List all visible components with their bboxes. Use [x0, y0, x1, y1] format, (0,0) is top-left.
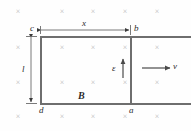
field-into-page-mark: × — [58, 113, 66, 121]
field-into-page-mark: × — [89, 8, 97, 16]
field-into-page-mark: × — [89, 113, 97, 121]
bottom-rail — [40, 103, 191, 105]
field-into-page-mark: × — [121, 44, 129, 52]
field-into-page-mark: × — [14, 113, 22, 121]
label-dimension-x: x — [82, 19, 86, 28]
field-into-page-mark: × — [58, 79, 66, 87]
field-into-page-mark: × — [153, 113, 161, 121]
field-into-page-mark: × — [153, 44, 161, 52]
label-velocity: v — [173, 62, 177, 71]
sliding-bar — [130, 36, 132, 104]
field-into-page-mark: × — [121, 8, 129, 16]
field-into-page-mark: × — [89, 79, 97, 87]
rail-diagram-figure: ×××××××××××××××××××× — [0, 0, 191, 131]
arrows-layer — [0, 0, 191, 131]
field-into-page-mark: × — [121, 79, 129, 87]
field-into-page-mark: × — [153, 79, 161, 87]
left-rail-segment — [40, 36, 42, 104]
label-field-B: B — [78, 91, 85, 100]
field-into-page-mark: × — [89, 44, 97, 52]
field-into-page-mark: × — [121, 113, 129, 121]
label-emf: ε — [112, 64, 116, 73]
label-corner-d: d — [39, 106, 44, 115]
field-into-page-mark: × — [58, 44, 66, 52]
label-corner-a: a — [129, 106, 134, 115]
top-rail — [40, 36, 191, 38]
field-into-page-mark: × — [14, 79, 22, 87]
label-dimension-l: l — [22, 65, 25, 74]
field-into-page-mark: × — [14, 44, 22, 52]
label-corner-b: b — [134, 24, 139, 33]
field-into-page-mark: × — [14, 8, 22, 16]
label-corner-c: c — [30, 24, 34, 33]
dimension-l-arrow — [26, 37, 37, 104]
field-into-page-mark: × — [153, 8, 161, 16]
field-into-page-mark: × — [58, 8, 66, 16]
